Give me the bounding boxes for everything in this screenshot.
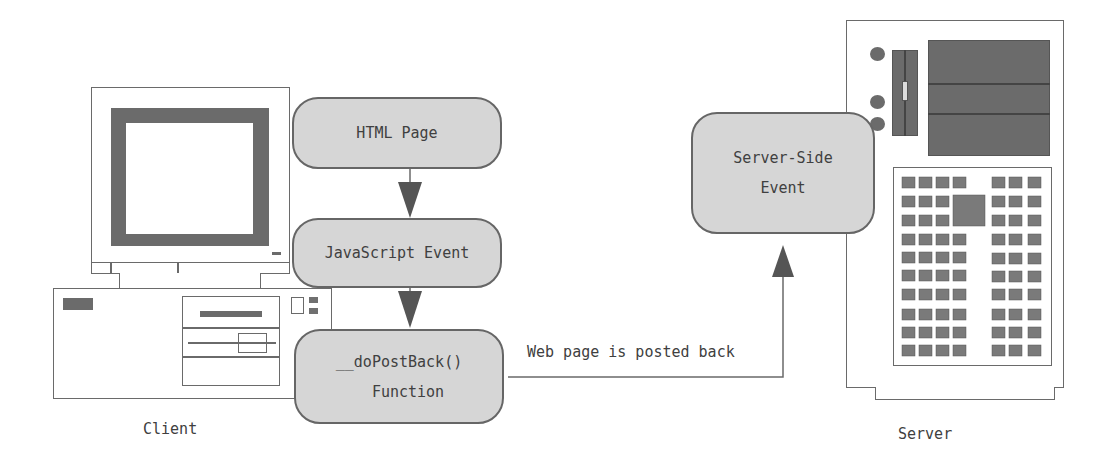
node-server-side-event-line2: Event bbox=[760, 173, 805, 203]
node-dopostback-line1: __doPostBack() bbox=[336, 347, 462, 377]
connectors bbox=[0, 0, 1112, 465]
node-javascript-event-label: JavaScript Event bbox=[325, 238, 470, 268]
arrow-down-icon bbox=[398, 182, 422, 218]
node-dopostback-line2: Function bbox=[354, 377, 444, 407]
postback-edge-label: Web page is posted back bbox=[527, 343, 735, 361]
node-server-side-event: Server-Side Event bbox=[691, 112, 875, 234]
arrow-up-icon bbox=[772, 245, 794, 277]
node-html-page: HTML Page bbox=[292, 97, 502, 169]
node-server-side-event-line1: Server-Side bbox=[733, 143, 832, 173]
arrow-down-icon bbox=[398, 291, 422, 328]
node-dopostback-function: __doPostBack() Function bbox=[294, 329, 504, 424]
node-html-page-label: HTML Page bbox=[356, 118, 437, 148]
node-javascript-event: JavaScript Event bbox=[292, 218, 502, 288]
